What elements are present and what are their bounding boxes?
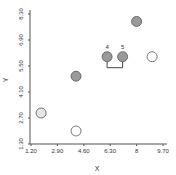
data-points: 45 (36, 16, 157, 136)
plot-area: 1.202.904.606.3089.70 1.302.704.105.506.… (0, 0, 176, 175)
x-tick-label: 6.30 (104, 148, 116, 154)
point-label: 4 (105, 44, 109, 50)
data-point (118, 52, 128, 62)
x-tick-label: 8 (135, 148, 139, 154)
bracket-connector (107, 62, 123, 68)
y-tick-label: 4.10 (18, 86, 24, 98)
annotations (107, 62, 123, 68)
x-axis-label: X (95, 165, 100, 172)
data-point (147, 52, 157, 62)
y-axis-ticks: 1.302.704.105.506.908.30 (18, 8, 30, 150)
y-tick-label: 5.50 (18, 60, 24, 72)
data-point (71, 126, 81, 136)
x-axis-ticks: 1.202.904.606.3089.70 (25, 144, 169, 154)
axes (30, 10, 167, 144)
y-tick-label: 1.30 (18, 138, 24, 150)
data-point (132, 16, 142, 26)
y-tick-label: 6.90 (18, 34, 24, 46)
data-point (36, 108, 46, 118)
data-point (102, 52, 112, 62)
x-tick-label: 9.70 (157, 148, 169, 154)
y-tick-label: 8.30 (18, 8, 24, 20)
data-point (71, 71, 81, 81)
y-tick-label: 2.70 (18, 112, 24, 124)
x-tick-label: 2.90 (52, 148, 64, 154)
scatter-chart: 1.202.904.606.3089.70 1.302.704.105.506.… (0, 0, 176, 175)
x-tick-label: 4.60 (78, 148, 90, 154)
y-axis-label: Y (2, 77, 9, 82)
point-label: 5 (121, 44, 125, 50)
x-tick-label: 1.20 (25, 148, 37, 154)
